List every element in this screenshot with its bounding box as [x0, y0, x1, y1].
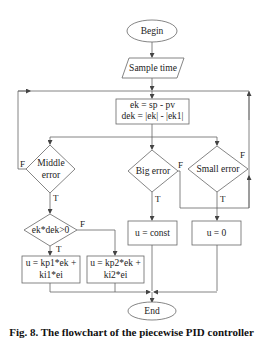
small-error-label: Small error — [188, 163, 248, 175]
middle-true-label: T — [53, 193, 59, 203]
ekdek-true-label: T — [56, 244, 62, 254]
u-zero-label: u = 0 — [192, 227, 241, 239]
ekdek-false-label: F — [80, 219, 85, 229]
small-false-label: F — [240, 150, 245, 160]
end-label: End — [128, 305, 176, 317]
middle-error-decision — [26, 145, 75, 193]
big-error-label: Big error — [128, 165, 178, 177]
figure-caption: Fig. 8. The flowchart of the piecewise P… — [0, 326, 263, 338]
small-true-label: T — [220, 194, 226, 204]
middle-error-label-1: Middle — [28, 158, 74, 169]
begin-label: Begin — [127, 25, 177, 37]
middle-false-label: F — [20, 159, 25, 169]
u-const-label: u = const — [128, 227, 177, 239]
pid1-label-2: ki1*ei — [22, 270, 80, 281]
ekdek-label: ek*dek>0 — [24, 224, 77, 236]
pid2-label-1: u = kp2*ek + — [87, 258, 144, 269]
middle-error-label-2: error — [28, 170, 74, 181]
compute-line2-label: dek = |ek| - |ek1| — [116, 111, 189, 122]
big-true-label: T — [155, 194, 161, 204]
pid2-label-2: ki2*ei — [87, 270, 144, 281]
pid1-label-1: u = kp1*ek + — [22, 258, 80, 269]
big-false-label: F — [178, 160, 183, 170]
sample-time-label: Sample time — [122, 62, 184, 74]
compute-line1-label: ek = sp - pv — [116, 100, 189, 111]
